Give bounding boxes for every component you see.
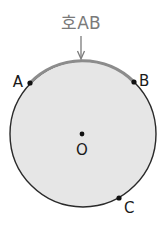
point-c-label: C <box>124 199 134 217</box>
point-b-label: B <box>139 72 149 90</box>
point-a-label: A <box>13 73 24 91</box>
circle-arc-diagram: 호AB A B O C <box>0 0 166 228</box>
center-label: O <box>76 141 88 159</box>
point-a <box>27 80 32 85</box>
center-point <box>80 132 85 137</box>
point-c <box>116 195 121 200</box>
point-b <box>131 79 136 84</box>
arc-label: 호AB <box>61 13 100 33</box>
